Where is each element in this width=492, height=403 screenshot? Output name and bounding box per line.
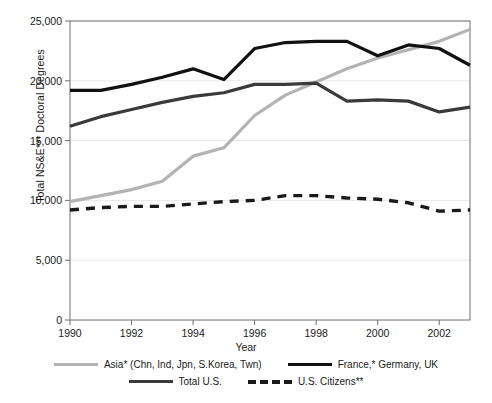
legend-item[interactable]: U.S. Citizens** (248, 376, 364, 387)
legend-row-1: Asia* (Chn, Ind, Jpn, S.Korea, Twn)Franc… (0, 356, 492, 373)
plot-area (0, 0, 492, 403)
legend-label: France,* Germany, UK (338, 359, 438, 370)
legend-item[interactable]: Asia* (Chn, Ind, Jpn, S.Korea, Twn) (54, 359, 262, 370)
series-line-3 (70, 196, 470, 212)
legend-swatch-solid (54, 363, 98, 366)
plot-frame (70, 21, 470, 320)
legend-item[interactable]: France,* Germany, UK (288, 359, 438, 370)
legend-item[interactable]: Total U.S. (129, 376, 222, 387)
chart-legend: Asia* (Chn, Ind, Jpn, S.Korea, Twn)Franc… (0, 356, 492, 390)
legend-label: Asia* (Chn, Ind, Jpn, S.Korea, Twn) (104, 359, 262, 370)
legend-label: Total U.S. (179, 376, 222, 387)
legend-swatch-dashed (248, 380, 292, 384)
legend-swatch-solid (288, 363, 332, 366)
series-line-0 (70, 29, 470, 201)
chart-figure: Total NS&E*** Doctoral Degrees Year 05,0… (0, 0, 492, 403)
legend-row-2: Total U.S.U.S. Citizens** (0, 373, 492, 390)
legend-label: U.S. Citizens** (298, 376, 364, 387)
legend-swatch-solid (129, 380, 173, 383)
